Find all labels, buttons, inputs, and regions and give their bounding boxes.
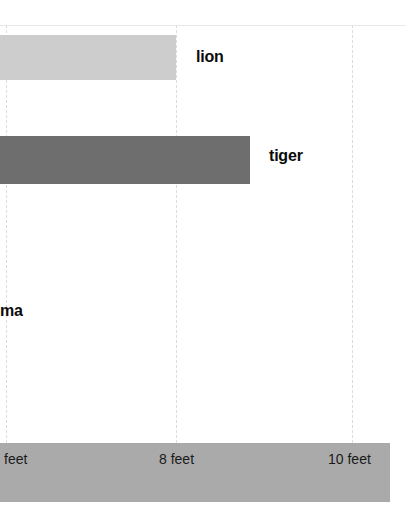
- axis-tick-label-10-feet: 10 feet: [328, 451, 371, 467]
- axis-tick-label-8-feet: 8 feet: [159, 451, 194, 467]
- bar-label-puma-truncated: ma: [0, 302, 23, 320]
- gridline-10-feet: [352, 25, 354, 443]
- bar-label-lion: lion: [196, 48, 224, 66]
- plot-top-border: [0, 25, 406, 26]
- bar-tiger: [0, 136, 250, 184]
- plot-area: lion tiger ma: [0, 0, 420, 443]
- bar-label-tiger: tiger: [269, 147, 303, 165]
- gridline-6-feet: [6, 25, 8, 443]
- bar-chart: lion tiger ma feet 8 feet 10 feet: [0, 0, 420, 515]
- gridline-8-feet: [176, 25, 178, 443]
- axis-tick-label-6-feet: feet: [4, 451, 27, 467]
- bar-lion: [0, 35, 176, 80]
